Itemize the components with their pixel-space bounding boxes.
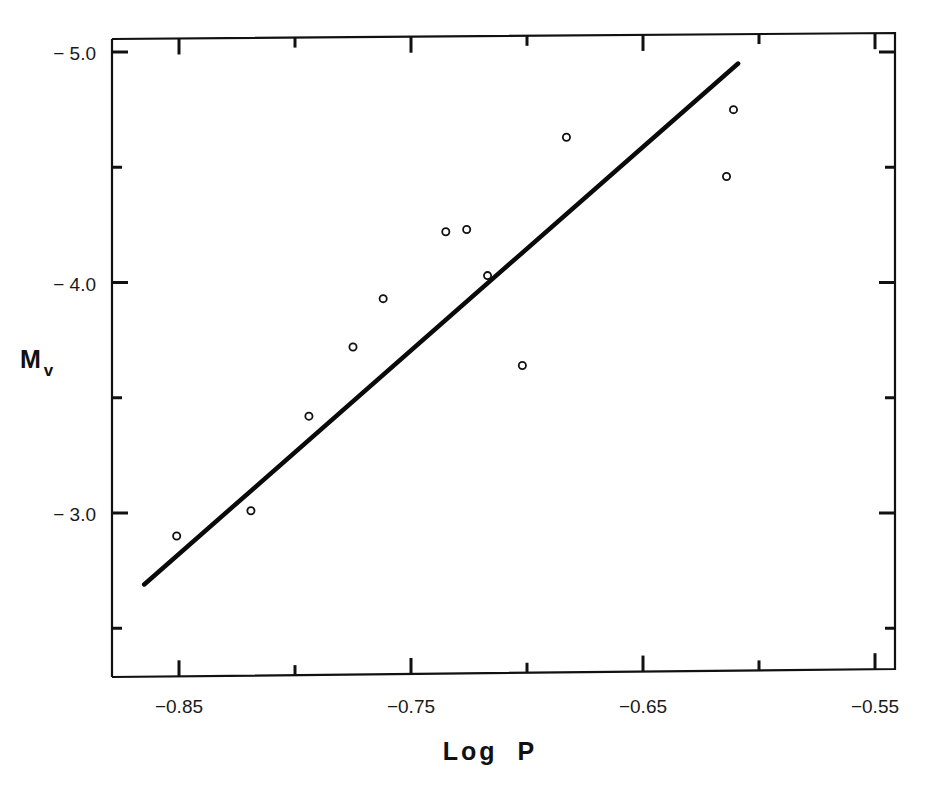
y-axis-title-subscript: v <box>44 361 56 380</box>
data-points <box>173 106 737 540</box>
period-luminosity-chart: −0.85−0.75−0.65−0.55 − 5.0− 4.0− 3.0 Log… <box>0 0 928 789</box>
data-point-open-circle <box>442 228 449 235</box>
data-point-open-circle <box>173 532 180 539</box>
y-axis-title: Mv <box>20 345 56 380</box>
y-axis-tick-labels: − 5.0− 4.0− 3.0 <box>53 43 96 525</box>
x-tick-label: −0.55 <box>851 696 899 717</box>
x-tick-label: −0.75 <box>387 696 435 717</box>
fit-line <box>144 64 738 585</box>
x-axis-ticks <box>179 33 875 676</box>
y-tick-label: − 5.0 <box>53 43 96 64</box>
y-tick-label: − 3.0 <box>53 504 96 525</box>
data-point-open-circle <box>349 343 356 350</box>
y-tick-label: − 4.0 <box>53 274 96 295</box>
data-point-open-circle <box>723 173 730 180</box>
data-point-open-circle <box>247 507 254 514</box>
y-axis-ticks <box>112 52 895 628</box>
x-axis-tick-labels: −0.85−0.75−0.65−0.55 <box>155 696 899 717</box>
data-point-open-circle <box>730 106 737 113</box>
data-point-open-circle <box>563 134 570 141</box>
data-point-open-circle <box>305 413 312 420</box>
data-point-open-circle <box>519 362 526 369</box>
regression-line <box>144 64 738 585</box>
data-point-open-circle <box>484 272 491 279</box>
data-point-open-circle <box>463 226 470 233</box>
data-point-open-circle <box>380 295 387 302</box>
plot-frame <box>112 33 895 677</box>
x-tick-label: −0.65 <box>619 696 667 717</box>
x-tick-label: −0.85 <box>155 696 203 717</box>
x-axis-title: Log P <box>443 737 537 765</box>
y-axis-title-main: M <box>20 345 44 373</box>
plot-border <box>112 33 895 677</box>
